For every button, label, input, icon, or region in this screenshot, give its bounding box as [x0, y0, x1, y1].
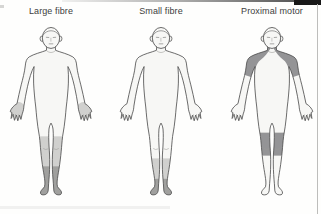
head [150, 27, 172, 48]
scanned-diagram-page: Large fibre Small fibre Proximal motor [0, 0, 321, 214]
shade-feet-socks [31, 166, 71, 197]
body-figure-small-fibre [115, 26, 207, 197]
label-proximal-motor: Proximal motor [226, 6, 318, 16]
label-large-fibre: Large fibre [5, 6, 97, 16]
scan-artifact-bottom-shadow [0, 206, 170, 209]
shading-small-fibre [141, 158, 181, 197]
head [261, 27, 283, 48]
label-small-fibre: Small fibre [115, 6, 207, 16]
shade-feet [141, 179, 181, 197]
head [40, 27, 62, 48]
body-figure-large-fibre [5, 26, 97, 197]
shade-knees-thighs [252, 133, 292, 156]
scan-artifact-top-line [62, 0, 295, 2]
shade-lower-legs [31, 136, 71, 166]
shade-ankles [141, 158, 181, 178]
body-figure-proximal-motor [226, 26, 318, 197]
scan-artifact-left-smudge [0, 5, 4, 8]
